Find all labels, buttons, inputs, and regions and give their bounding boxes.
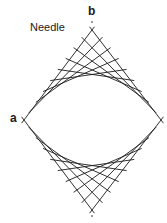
- point-marker: [91, 21, 93, 23]
- thread-line: [82, 127, 157, 203]
- string-art-diagram: [0, 0, 167, 223]
- point-marker: [91, 215, 93, 217]
- thread-line: [90, 27, 164, 123]
- thread-line: [36, 138, 111, 193]
- thread-line: [82, 37, 157, 113]
- thread-line: [36, 48, 111, 103]
- thread-line: [90, 117, 164, 213]
